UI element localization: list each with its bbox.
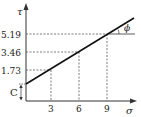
angle-arc bbox=[118, 30, 119, 34]
y-tick-1-73: 1.73 bbox=[1, 66, 21, 76]
c-arrow-up-icon bbox=[19, 85, 22, 89]
c-label: C bbox=[10, 87, 18, 98]
phi-label: ϕ bbox=[124, 23, 130, 33]
c-arrow-down-icon bbox=[19, 97, 22, 101]
mohr-coulomb-diagram: τ σ 5.19 3.46 1.73 C 3 6 9 ϕ bbox=[0, 0, 141, 117]
y-tick-3-46: 3.46 bbox=[1, 48, 21, 58]
x-axis-arrow-icon bbox=[130, 99, 137, 104]
y-tick-5-19: 5.19 bbox=[1, 30, 21, 40]
x-tick-6: 6 bbox=[76, 104, 82, 114]
sigma-label: σ bbox=[126, 105, 134, 116]
y-axis-arrow-icon bbox=[24, 3, 29, 10]
c-intercept-arrow-icon bbox=[19, 84, 26, 99]
tau-label: τ bbox=[17, 6, 23, 17]
envelope-line bbox=[26, 18, 134, 84]
x-tick-3: 3 bbox=[48, 104, 54, 114]
x-tick-9: 9 bbox=[104, 104, 110, 114]
guide-lines bbox=[26, 34, 107, 101]
